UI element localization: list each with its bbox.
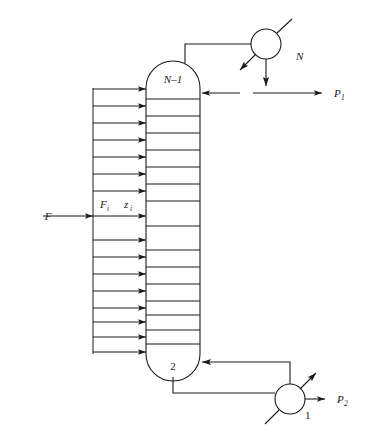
feed-i-subscript: i bbox=[107, 204, 109, 213]
bottom-product-label: P bbox=[336, 393, 344, 405]
bottoms-to-reboiler-line bbox=[173, 377, 275, 393]
tray-line-group bbox=[93, 89, 146, 352]
feed-composition-subscript: i bbox=[130, 204, 132, 213]
top-product-label: P bbox=[333, 87, 341, 99]
reboiler-duty-arrow bbox=[300, 373, 316, 389]
reflux-return-line bbox=[185, 44, 251, 63]
condenser-utility-line bbox=[277, 19, 292, 33]
condenser-unit bbox=[185, 19, 292, 86]
column-shell bbox=[146, 61, 200, 381]
top-product-subscript: 1 bbox=[341, 93, 345, 102]
process-flow-diagram: F F i z i N–1 2 N 1 P 1 P 2 bbox=[0, 0, 371, 438]
labels-layer: F F i z i N–1 2 N 1 P 1 P 2 bbox=[44, 50, 348, 421]
tray-line-inner-group bbox=[146, 99, 200, 344]
feed-composition-label: z bbox=[123, 198, 129, 210]
reboiler-label: 1 bbox=[305, 409, 311, 421]
reboiler-unit bbox=[173, 362, 325, 424]
bottom-product-subscript: 2 bbox=[344, 399, 348, 408]
flowsheet-canvas: F F i z i N–1 2 N 1 P 1 P 2 bbox=[0, 0, 371, 438]
vapor-return-line bbox=[202, 362, 290, 384]
reboiler-utility-line bbox=[265, 410, 279, 424]
condenser-duty-arrow bbox=[240, 54, 256, 70]
feed-i-label: F bbox=[99, 198, 107, 210]
stage-n-minus-1-label: N–1 bbox=[163, 73, 182, 85]
condenser-label: N bbox=[295, 50, 304, 62]
stage-2-label: 2 bbox=[170, 360, 176, 372]
feed-label: F bbox=[44, 210, 52, 222]
